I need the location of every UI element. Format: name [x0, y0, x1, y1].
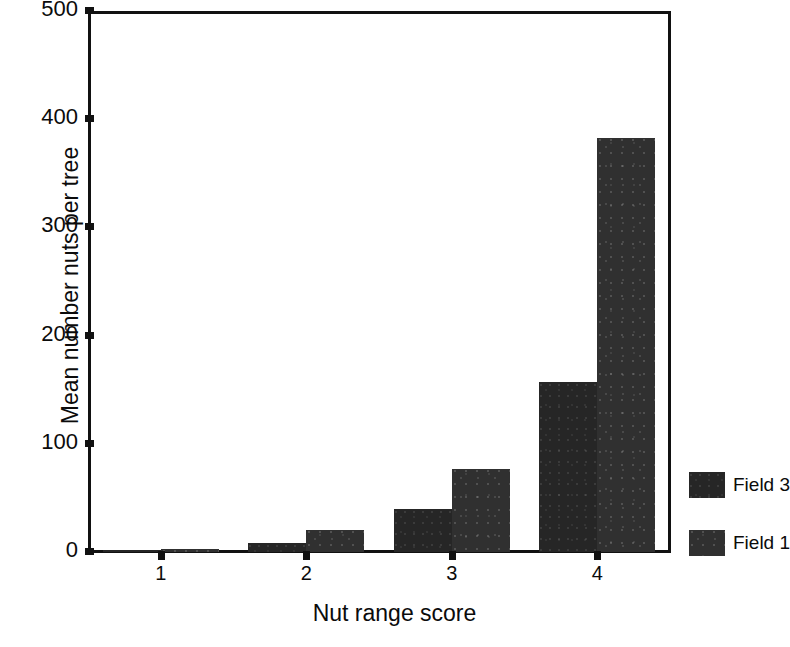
bar [161, 549, 219, 552]
x-tick-label: 4 [577, 562, 617, 585]
x-tick-label: 1 [141, 562, 181, 585]
legend-swatch [689, 472, 725, 498]
y-tick-label: 400 [20, 106, 78, 128]
legend-item: Field 1 [689, 528, 789, 558]
x-tick-label: 2 [286, 562, 326, 585]
legend-label: Field 3 [733, 474, 790, 496]
x-tick-label: 3 [432, 562, 472, 585]
bar [306, 530, 364, 552]
x-tick-mark [594, 551, 601, 560]
legend-item: Field 3 [689, 470, 789, 500]
legend-swatch [689, 530, 725, 556]
y-tick-label: 0 [20, 539, 78, 561]
legend-label: Field 1 [733, 532, 790, 554]
bar [248, 543, 306, 552]
bar [452, 469, 510, 552]
chart-legend: Field 3Field 1 [689, 470, 789, 586]
y-tick-label: 300 [20, 214, 78, 236]
x-axis-title: Nut range score [0, 600, 789, 627]
bar [539, 382, 597, 552]
y-tick-label: 200 [20, 323, 78, 345]
x-tick-mark [158, 551, 165, 560]
x-tick-mark [449, 551, 456, 560]
y-tick-label: 100 [20, 431, 78, 453]
bar [103, 550, 161, 552]
y-tick-label: 500 [20, 0, 78, 20]
bars-layer [88, 11, 671, 552]
bar [597, 138, 655, 552]
x-tick-mark [303, 551, 310, 560]
y-axis-tick-labels: 0100200300400500 [18, 0, 78, 647]
bar [394, 509, 452, 552]
